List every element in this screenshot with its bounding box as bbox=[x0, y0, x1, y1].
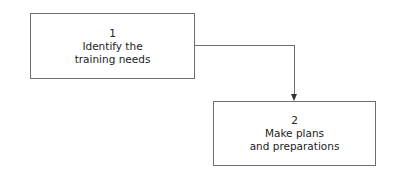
arrow-down-icon bbox=[291, 94, 297, 101]
flow-step-1-box: 1 Identify the training needs bbox=[30, 13, 195, 79]
step-1-label-line2: training needs bbox=[75, 53, 151, 66]
step-2-label-line2: and preparations bbox=[250, 140, 340, 153]
step-1-number: 1 bbox=[109, 27, 116, 40]
flow-step-2-box: 2 Make plans and preparations bbox=[213, 101, 376, 166]
step-2-number: 2 bbox=[291, 114, 298, 127]
step-2-label-line1: Make plans bbox=[265, 127, 324, 140]
step-1-label-line1: Identify the bbox=[82, 40, 142, 53]
connector-horizontal bbox=[195, 45, 295, 46]
connector-vertical bbox=[294, 45, 295, 95]
